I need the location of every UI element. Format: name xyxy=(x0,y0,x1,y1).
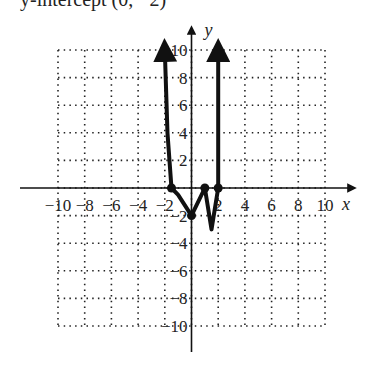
y-tick-label: 6 xyxy=(179,96,188,115)
y-tick-label: −10 xyxy=(161,317,188,336)
x-axis-label: x xyxy=(341,194,350,214)
polynomial-graph: xy −10−8−6−4−2246810−10−8−6−4−2246810 xyxy=(0,0,367,369)
marked-point xyxy=(214,184,223,193)
x-tick-label: 8 xyxy=(294,196,303,215)
marked-point xyxy=(200,184,209,193)
y-tick-label: −6 xyxy=(169,262,187,281)
marked-point xyxy=(167,184,176,193)
y-tick-label: −2 xyxy=(169,207,187,226)
y-tick-label: −4 xyxy=(169,234,188,253)
y-tick-label: 2 xyxy=(179,151,188,170)
y-tick-label: 4 xyxy=(179,124,188,143)
x-tick-label: −8 xyxy=(76,196,94,215)
y-axis-label: y xyxy=(203,20,213,40)
marked-point xyxy=(187,211,196,220)
y-tick-label: −8 xyxy=(169,289,187,308)
x-tick-label: 10 xyxy=(317,196,334,215)
x-tick-label: −10 xyxy=(45,196,72,215)
x-tick-label: 6 xyxy=(267,196,276,215)
x-tick-label: −4 xyxy=(129,196,148,215)
x-tick-label: −6 xyxy=(102,196,120,215)
y-tick-label: 10 xyxy=(171,41,188,60)
x-tick-label: 4 xyxy=(241,196,250,215)
y-tick-label: 8 xyxy=(179,69,188,88)
